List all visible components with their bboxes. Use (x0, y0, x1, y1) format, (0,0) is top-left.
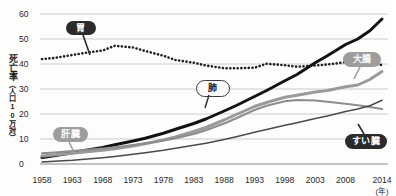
callout-すい臓: すい臓 (345, 134, 387, 149)
x-axis-tick-2008: 2008 (329, 175, 363, 185)
x-axis-tick-1958: 1958 (25, 175, 59, 185)
x-axis-tick-1983: 1983 (177, 175, 211, 185)
y-axis-tick-10: 10 (19, 134, 35, 144)
y-axis-tick-0: 0 (19, 159, 35, 169)
x-axis-tick-1963: 1963 (55, 175, 89, 185)
y-axis-title-sub: （人口10万対） (8, 81, 18, 141)
callout-胃: 胃 (66, 21, 96, 35)
x-axis-tick-1973: 1973 (116, 175, 150, 185)
x-axis-tick-1978: 1978 (146, 175, 180, 185)
y-axis-tick-50: 50 (19, 34, 35, 44)
x-axis-unit-label: (年) (365, 185, 396, 196)
x-axis-tick-2003: 2003 (298, 175, 332, 185)
y-axis-tick-40: 40 (19, 59, 35, 69)
series-line-肝臓 (42, 100, 382, 153)
series-line-すい臓 (42, 100, 382, 162)
x-axis-tick-1968: 1968 (86, 175, 120, 185)
y-axis-tick-30: 30 (19, 84, 35, 94)
y-axis-tick-20: 20 (19, 109, 35, 119)
y-axis-title: 死亡率（人口10万対） (1, 36, 17, 158)
callout-肺: 肺 (196, 80, 230, 97)
x-axis-tick-1998: 1998 (268, 175, 302, 185)
x-axis-tick-1993: 1993 (238, 175, 272, 185)
y-axis-tick-60: 60 (19, 9, 35, 19)
x-axis-tick-2014: 2014 (365, 175, 396, 185)
series-line-胃 (42, 46, 382, 69)
x-axis-tick-1988: 1988 (207, 175, 241, 185)
callout-肝臓: 肝臓 (53, 127, 88, 142)
y-axis-title-main: 死亡率 (8, 54, 18, 81)
callout-大腸: 大腸 (343, 52, 381, 67)
